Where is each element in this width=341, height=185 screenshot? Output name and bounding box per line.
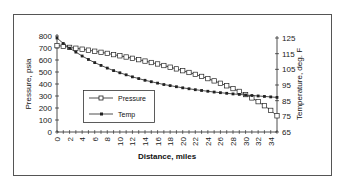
pressure-temperature-chart: 0100200300400500600700800657585951051151… [0, 0, 341, 185]
open-square-marker-icon [149, 60, 153, 64]
x-tick-label: 18 [166, 136, 175, 145]
filled-square-marker-icon [144, 79, 147, 82]
y-tick-label: 400 [39, 80, 53, 89]
filled-square-marker-icon [162, 83, 165, 86]
y2-tick-label: 75 [282, 112, 291, 121]
x-tick-label: 12 [128, 136, 137, 145]
filled-square-marker-icon [200, 89, 203, 92]
filled-square-marker-icon [118, 71, 121, 74]
filled-square-marker-icon [250, 94, 253, 97]
filled-square-marker-icon [150, 80, 153, 83]
x-tick-label: 26 [216, 136, 225, 145]
filled-square-marker-icon [169, 84, 172, 87]
open-square-marker-icon [74, 46, 78, 50]
open-square-marker-icon [193, 72, 197, 76]
legend: Pressure Temp [84, 91, 155, 123]
filled-square-marker-icon [206, 90, 209, 93]
open-square-marker-icon [187, 70, 191, 74]
filled-square-marker-icon [56, 37, 59, 40]
open-square-marker-icon [231, 86, 235, 90]
y-tick-label: 800 [39, 32, 53, 41]
y2-tick-label: 85 [282, 97, 291, 106]
y-tick-label: 600 [39, 56, 53, 65]
filled-square-marker-icon [100, 113, 103, 116]
y2-tick-label: 105 [282, 65, 296, 74]
x-tick-label: 8 [103, 136, 112, 141]
filled-square-marker-icon [81, 55, 84, 58]
y-tick-label: 100 [39, 116, 53, 125]
open-square-marker-icon [225, 84, 229, 88]
open-square-marker-icon [212, 79, 216, 83]
filled-square-marker-icon [232, 93, 235, 96]
x-tick-label: 2 [66, 136, 75, 141]
y2-tick-label: 95 [282, 81, 291, 90]
y-axis-title: Pressure, psia [24, 58, 33, 110]
x-tick-label: 14 [141, 136, 150, 145]
filled-square-marker-icon [188, 87, 191, 90]
open-square-marker-icon [256, 99, 260, 103]
filled-square-marker-icon [68, 47, 71, 50]
filled-square-marker-icon [131, 75, 134, 78]
y2-tick-label: 65 [282, 128, 291, 137]
x-tick-label: 4 [78, 136, 87, 141]
x-axis-title: Distance, miles [138, 152, 197, 161]
filled-square-marker-icon [263, 95, 266, 98]
y-tick-label: 200 [39, 104, 53, 113]
filled-square-marker-icon [219, 91, 222, 94]
y2-tick-label: 125 [282, 34, 296, 43]
x-tick-label: 32 [254, 136, 263, 145]
filled-square-marker-icon [100, 64, 103, 67]
open-square-marker-icon [237, 89, 241, 93]
open-square-marker-icon [124, 55, 128, 59]
open-square-marker-icon [269, 108, 273, 112]
open-square-marker-icon [93, 49, 97, 53]
filled-square-marker-icon [257, 95, 260, 98]
filled-square-marker-icon [106, 67, 109, 70]
x-tick-label: 6 [91, 136, 100, 141]
open-square-marker-icon [118, 54, 122, 58]
x-tick-label: 16 [154, 136, 163, 145]
filled-square-marker-icon [238, 93, 241, 96]
x-tick-label: 10 [116, 136, 125, 145]
x-tick-label: 24 [204, 136, 213, 145]
y-tick-label: 700 [39, 44, 53, 53]
filled-square-marker-icon [125, 73, 128, 76]
x-tick-label: 30 [242, 136, 251, 145]
filled-square-marker-icon [244, 94, 247, 97]
x-tick-label: 34 [267, 136, 276, 145]
y2-axis-title: Temperature, deg. F [295, 48, 304, 120]
open-square-marker-icon [105, 51, 109, 55]
open-square-marker-icon [86, 48, 90, 52]
y-tick-label: 500 [39, 68, 53, 77]
filled-square-marker-icon [225, 92, 228, 95]
y-tick-label: 0 [48, 128, 53, 137]
open-square-marker-icon [162, 63, 166, 67]
open-square-marker-icon [168, 65, 172, 69]
filled-square-marker-icon [87, 58, 90, 61]
filled-square-marker-icon [181, 86, 184, 89]
filled-square-marker-icon [194, 88, 197, 91]
open-square-marker-icon [130, 56, 134, 60]
filled-square-marker-icon [269, 96, 272, 99]
open-square-marker-icon [181, 68, 185, 72]
filled-square-marker-icon [93, 61, 96, 64]
open-square-marker-icon [111, 52, 115, 56]
open-square-marker-icon [80, 47, 84, 51]
open-square-marker-icon [262, 104, 266, 108]
open-square-marker-icon [174, 67, 178, 71]
filled-square-marker-icon [62, 42, 65, 45]
legend-label-temp: Temp [118, 111, 135, 119]
open-square-marker-icon [206, 76, 210, 80]
open-square-marker-icon [99, 96, 103, 100]
open-square-marker-icon [218, 81, 222, 85]
open-square-marker-icon [275, 114, 279, 118]
filled-square-marker-icon [156, 82, 159, 85]
filled-square-marker-icon [137, 77, 140, 80]
legend-label-pressure: Pressure [118, 95, 146, 102]
x-tick-label: 28 [229, 136, 238, 145]
filled-square-marker-icon [74, 51, 77, 54]
filled-square-marker-icon [213, 91, 216, 94]
open-square-marker-icon [55, 43, 59, 47]
filled-square-marker-icon [276, 96, 279, 99]
y-tick-label: 300 [39, 92, 53, 101]
